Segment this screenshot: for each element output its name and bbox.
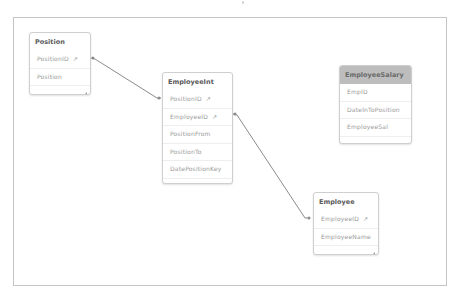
table-position[interactable]: Position PositionID↗ Position	[29, 32, 91, 95]
field-positionfrom[interactable]: PositionFrom	[163, 126, 232, 144]
field-label: Position	[37, 73, 62, 80]
table-footer	[340, 137, 411, 145]
field-dateintoposition[interactable]: DateInToPosition	[340, 102, 411, 120]
field-label: PositionID	[37, 55, 69, 62]
field-employeesal[interactable]: EmployeeSal	[340, 119, 411, 137]
resize-handle-icon[interactable]	[404, 143, 408, 145]
field-datepositionkey[interactable]: DatePositionKey	[163, 161, 232, 179]
key-icon: ↗	[212, 109, 217, 126]
field-label: DatePositionKey	[170, 165, 222, 172]
field-employeename[interactable]: EmployeeName	[314, 229, 378, 247]
field-positionid[interactable]: PositionID↗	[30, 51, 90, 69]
field-positionto[interactable]: PositionTo	[163, 144, 232, 162]
field-positionid[interactable]: PositionID↗	[163, 91, 232, 109]
table-employee[interactable]: Employee EmployeeID↗ EmployeeName	[313, 192, 379, 255]
field-label: PositionTo	[170, 148, 202, 155]
key-icon: ↗	[73, 51, 78, 68]
field-empid[interactable]: EmpID	[340, 84, 411, 102]
table-footer	[314, 246, 378, 255]
field-label: EmployeeName	[321, 233, 371, 240]
field-position[interactable]: Position	[30, 69, 90, 87]
table-footer	[30, 86, 90, 95]
table-title: Employee	[314, 193, 378, 211]
resize-handle-icon[interactable]	[371, 252, 375, 255]
field-label: EmployeeID	[321, 215, 359, 222]
table-title: Position	[30, 33, 90, 51]
table-title: EmployeeSalary	[340, 66, 411, 84]
table-employeeint[interactable]: EmployeeInt PositionID↗ EmployeeID↗ Posi…	[162, 72, 233, 184]
field-label: EmployeeID	[170, 113, 208, 120]
field-employeeid[interactable]: EmployeeID↗	[163, 109, 232, 127]
field-label: EmployeeSal	[347, 123, 388, 130]
table-employeesalary[interactable]: EmployeeSalary EmpID DateInToPosition Em…	[339, 65, 412, 144]
key-icon: ↗	[363, 211, 368, 228]
key-icon: ↗	[206, 91, 211, 108]
table-title: EmployeeInt	[163, 73, 232, 91]
table-footer	[163, 179, 232, 185]
field-label: EmpID	[347, 88, 368, 95]
field-label: PositionID	[170, 95, 202, 102]
field-label: PositionFrom	[170, 130, 211, 137]
field-employeeid[interactable]: EmployeeID↗	[314, 211, 378, 229]
top-marker	[242, 1, 244, 4]
field-label: DateInToPosition	[347, 106, 400, 113]
resize-handle-icon[interactable]	[83, 92, 87, 95]
